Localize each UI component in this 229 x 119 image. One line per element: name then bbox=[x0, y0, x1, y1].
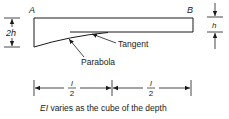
dimension-h: h bbox=[207, 3, 223, 49]
label-b: B bbox=[187, 5, 193, 15]
span-left-denominator: 2 bbox=[70, 89, 75, 98]
beam-diagram: A B 2h h Tangent Parabola l 2 bbox=[0, 0, 229, 119]
span-dimension: l 2 l 2 bbox=[34, 79, 191, 98]
beam bbox=[34, 18, 193, 47]
tangent-callout: Tangent bbox=[92, 34, 149, 49]
label-a: A bbox=[28, 5, 35, 15]
parabola-callout: Parabola bbox=[69, 39, 115, 67]
label-parabola: Parabola bbox=[81, 57, 115, 67]
label-2h: 2h bbox=[5, 28, 16, 38]
label-h: h bbox=[212, 21, 217, 30]
parabola-curve bbox=[34, 33, 108, 48]
label-tangent: Tangent bbox=[118, 39, 149, 49]
span-left-numerator: l bbox=[71, 79, 73, 88]
caption: EI varies as the cube of the depth bbox=[40, 103, 167, 113]
span-right-denominator: 2 bbox=[149, 89, 154, 98]
caption-text: varies as the cube of the depth bbox=[48, 103, 167, 113]
span-right-numerator: l bbox=[150, 79, 152, 88]
dimension-2h: 2h bbox=[4, 18, 20, 47]
